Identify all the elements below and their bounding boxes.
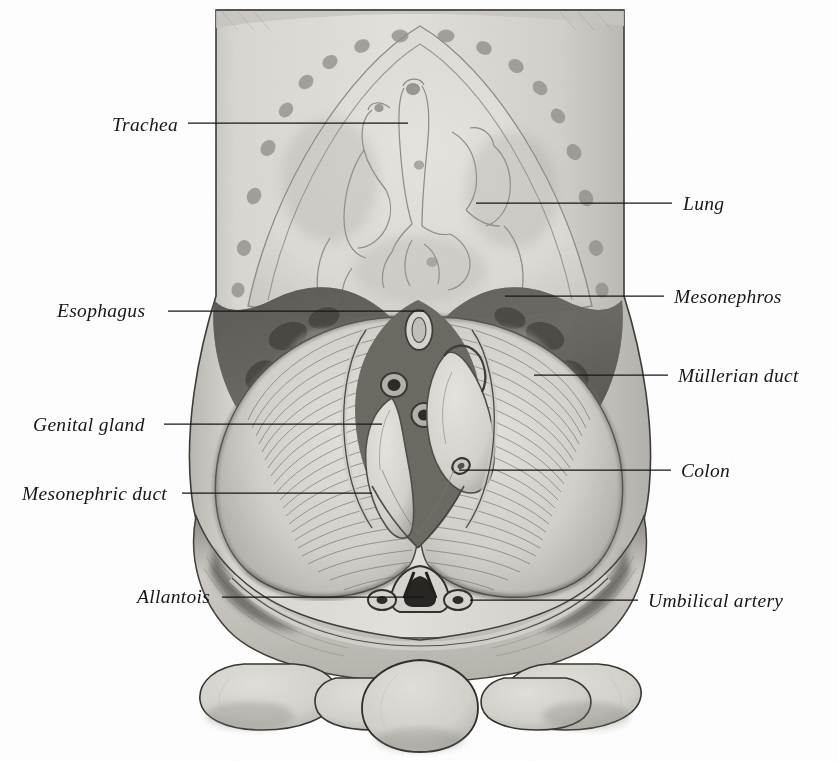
label-colon: Colon [681,461,730,481]
label-mesonephric-duct: Mesonephric duct [22,484,167,504]
label-mullerian-duct: Müllerian duct [678,366,799,386]
label-umbilical-artery: Umbilical artery [648,591,783,611]
label-allantois: Allantois [137,587,210,607]
label-trachea: Trachea [112,115,178,135]
label-mesonephros: Mesonephros [674,287,782,307]
anatomical-figure: TracheaEsophagusGenital glandMesonephric… [0,0,838,761]
label-esophagus: Esophagus [57,301,145,321]
label-lung: Lung [683,194,724,214]
label-genital-gland: Genital gland [33,415,145,435]
